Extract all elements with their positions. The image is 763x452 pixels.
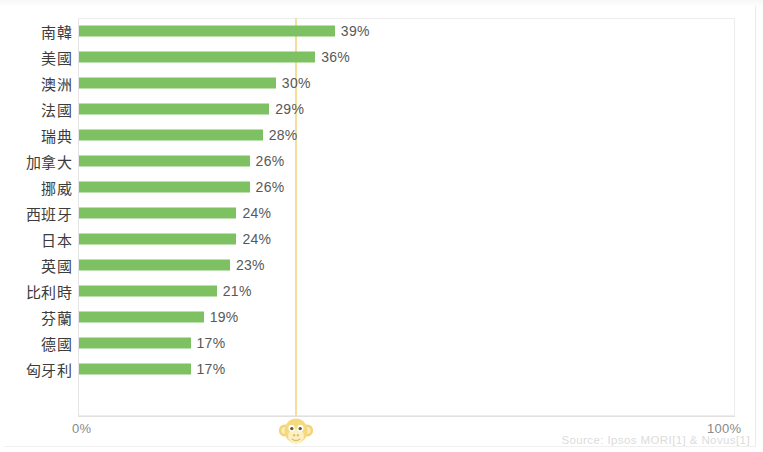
bar-chart: 南韓39%美國36%澳洲30%法國29%瑞典28%加拿大26%挪威26%西班牙2… [0, 7, 763, 452]
bar-value-label: 24% [242, 205, 271, 221]
bar-category-label: 匈牙利 [0, 359, 72, 380]
bar-row: 德國17% [0, 330, 763, 356]
bar-row: 英國23% [0, 252, 763, 278]
bar-category-label: 比利時 [0, 281, 72, 302]
bar-row: 南韓39% [0, 18, 763, 44]
bar-row: 匈牙利17% [0, 356, 763, 382]
bar-row: 挪威26% [0, 174, 763, 200]
bar-value-label: 17% [197, 335, 226, 351]
source-attribution: Source: Ipsos MORI[1] & Novus[1] [420, 434, 750, 446]
bar-category-label: 南韓 [0, 21, 72, 42]
bar-value-label: 17% [197, 361, 226, 377]
bar-category-label: 加拿大 [0, 151, 72, 172]
bar-category-label: 日本 [0, 229, 72, 250]
bar-category-label: 瑞典 [0, 125, 72, 146]
bar-value-label: 23% [236, 257, 265, 273]
bar-value-label: 19% [210, 309, 239, 325]
bar-category-label: 澳洲 [0, 73, 72, 94]
bar-row: 瑞典28% [0, 122, 763, 148]
page-top-crop-strip [0, 0, 763, 7]
bar [79, 286, 217, 297]
bar-row: 芬蘭19% [0, 304, 763, 330]
bar-row: 美國36% [0, 44, 763, 70]
bar-row: 西班牙24% [0, 200, 763, 226]
bar-value-label: 24% [242, 231, 271, 247]
bar-category-label: 西班牙 [0, 203, 72, 224]
bar [79, 26, 335, 37]
bar-value-label: 36% [321, 49, 350, 65]
chart-page: 南韓39%美國36%澳洲30%法國29%瑞典28%加拿大26%挪威26%西班牙2… [0, 0, 763, 452]
bar-row: 日本24% [0, 226, 763, 252]
bar [79, 52, 315, 63]
bar [79, 338, 191, 349]
bar [79, 312, 204, 323]
x-axis-tick-min: 0% [72, 421, 91, 436]
bar-value-label: 30% [282, 75, 311, 91]
bar-category-label: 挪威 [0, 177, 72, 198]
bar-row: 法國29% [0, 96, 763, 122]
bar [79, 234, 236, 245]
bar-value-label: 21% [223, 283, 252, 299]
bar-value-label: 29% [275, 101, 304, 117]
bar [79, 104, 269, 115]
bar-category-label: 芬蘭 [0, 307, 72, 328]
x-axis-line [78, 416, 735, 417]
bar-value-label: 39% [341, 23, 370, 39]
bar [79, 208, 236, 219]
bar-row: 加拿大26% [0, 148, 763, 174]
monkey-face-icon [278, 417, 314, 447]
bar [79, 156, 250, 167]
bar-rows: 南韓39%美國36%澳洲30%法國29%瑞典28%加拿大26%挪威26%西班牙2… [0, 18, 763, 382]
bar [79, 364, 191, 375]
bar-row: 澳洲30% [0, 70, 763, 96]
bar [79, 78, 276, 89]
bar-category-label: 英國 [0, 255, 72, 276]
bar-category-label: 美國 [0, 47, 72, 68]
bar-row: 比利時21% [0, 278, 763, 304]
bar-value-label: 26% [256, 179, 285, 195]
bar [79, 260, 230, 271]
bar-value-label: 26% [256, 153, 285, 169]
bar-category-label: 德國 [0, 333, 72, 354]
bar-value-label: 28% [269, 127, 298, 143]
bar-category-label: 法國 [0, 99, 72, 120]
bar [79, 130, 263, 141]
bar [79, 182, 250, 193]
